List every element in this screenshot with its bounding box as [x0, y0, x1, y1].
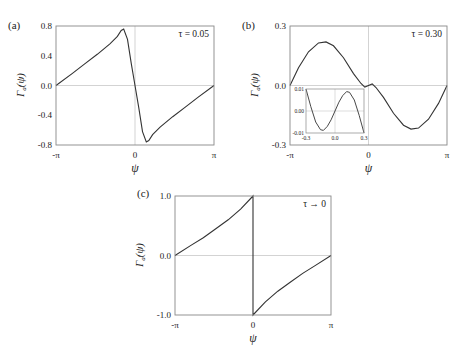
ytick: 0.3 — [275, 21, 287, 31]
ytick: 0.0 — [275, 81, 287, 91]
ytick: -0.3 — [272, 140, 287, 150]
xtick: 0 — [133, 150, 138, 160]
ytick: 0.4 — [41, 51, 53, 61]
panel-a: (a) 0.8 0.4 0.0 -0.4 -0.8 -π 0 π ψ τ = 0… — [8, 19, 217, 175]
figure: (a) 0.8 0.4 0.0 -0.4 -0.8 -π 0 π ψ τ = 0… — [0, 0, 468, 363]
panel-b-label: (b) — [242, 19, 255, 32]
panel-c-label: (c) — [137, 187, 150, 200]
x-axis-label: ψ — [131, 161, 139, 175]
ytick: -0.8 — [38, 140, 53, 150]
x-axis-label: ψ — [365, 161, 373, 175]
xtick: 0 — [251, 320, 256, 330]
svg-text:Γa(ψ): Γa(ψ) — [248, 73, 262, 98]
ytick: 1.0 — [160, 191, 172, 201]
xtick: π — [445, 150, 450, 160]
y-axis-label: Γa(ψ) — [14, 73, 28, 98]
tau-annotation: τ → 0 — [303, 199, 326, 209]
inset-ytick: 0.01 — [294, 86, 304, 92]
tau-annotation: τ = 0.05 — [178, 29, 209, 39]
panel-b: (b) 0.3 0.0 -0.3 -π 0 π ψ τ = 0.30 Γa(ψ)… — [242, 19, 450, 175]
tau-annotation: τ = 0.30 — [411, 29, 442, 39]
ytick: -0.4 — [38, 110, 53, 120]
panel-c: (c) 1.0 0.0 -1.0 -π 0 π ψ τ → 0 Γa(ψ) — [133, 187, 334, 345]
inset-xtick: 0.3 — [361, 135, 368, 141]
xtick: -π — [52, 150, 60, 160]
xtick: π — [212, 150, 217, 160]
xtick: -π — [171, 320, 179, 330]
ytick: 0.0 — [41, 81, 53, 91]
svg-text:Γa(ψ): Γa(ψ) — [133, 243, 147, 268]
y-axis-label: Γa(ψ) — [248, 73, 262, 98]
svg-text:Γa(ψ): Γa(ψ) — [14, 73, 28, 98]
inset-plot: 0.01 0.00 -0.01 -0.3 0.0 0.3 — [293, 86, 368, 141]
xtick: π — [329, 320, 334, 330]
xtick: 0 — [366, 150, 371, 160]
ytick: 0.0 — [160, 251, 172, 261]
y-axis-label: Γa(ψ) — [133, 243, 147, 268]
ytick: 0.8 — [41, 21, 53, 31]
xtick: -π — [286, 150, 294, 160]
inset-xtick: -0.3 — [302, 135, 311, 141]
ytick: -1.0 — [157, 310, 172, 320]
inset-ytick: 0.00 — [294, 108, 304, 114]
inset-xtick: 0.0 — [332, 135, 339, 141]
panel-a-label: (a) — [8, 19, 21, 32]
x-axis-label: ψ — [249, 331, 257, 345]
